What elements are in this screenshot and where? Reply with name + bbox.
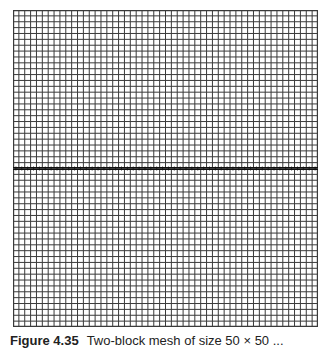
two-block-mesh xyxy=(13,10,318,327)
figure-caption: Figure 4.35Two-block mesh of size 50 × 5… xyxy=(10,333,284,348)
caption-text: Two-block mesh of size 50 × 50 ... xyxy=(87,333,284,348)
caption-label: Figure 4.35 xyxy=(10,333,79,348)
